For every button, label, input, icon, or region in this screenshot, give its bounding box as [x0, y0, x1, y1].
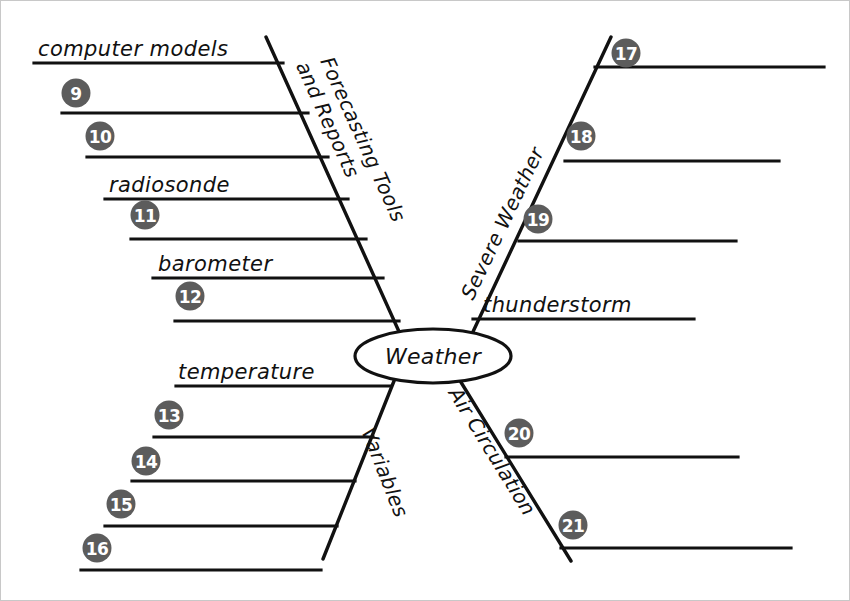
number-label-17: 17: [615, 44, 638, 64]
branch-label-forecasting: Forecasting Tools and Reports: [291, 48, 411, 236]
number-label-16: 16: [86, 539, 109, 559]
number-marker-16[interactable]: 16: [83, 534, 112, 563]
fishbone-diagram: Forecasting Tools and Reports computer m…: [1, 1, 850, 601]
number-marker-10[interactable]: 10: [86, 122, 115, 151]
center-node-weather[interactable]: Weather: [355, 329, 511, 383]
label-barometer: barometer: [158, 252, 273, 276]
number-marker-13[interactable]: 13: [155, 401, 184, 430]
number-marker-20[interactable]: 20: [505, 419, 534, 448]
branch-forecasting-tools-and-reports[interactable]: Forecasting Tools and Reports computer m…: [34, 37, 411, 336]
label-thunderstorm: thunderstorm: [483, 293, 632, 317]
number-marker-19[interactable]: 19: [524, 205, 553, 234]
diagram-canvas: Forecasting Tools and Reports computer m…: [0, 0, 850, 601]
number-label-19: 19: [527, 210, 550, 230]
branch-variables[interactable]: Variables temperature 13 14 15 16: [81, 360, 413, 570]
center-label-weather: Weather: [385, 344, 483, 369]
number-label-11: 11: [134, 206, 157, 226]
branch-spine-severe-weather: [471, 37, 611, 336]
number-label-14: 14: [135, 452, 158, 472]
number-label-9: 9: [70, 84, 81, 104]
number-marker-21[interactable]: 21: [559, 511, 588, 540]
number-marker-11[interactable]: 11: [131, 201, 160, 230]
number-marker-14[interactable]: 14: [132, 447, 161, 476]
number-label-21: 21: [562, 516, 585, 536]
branch-severe-weather[interactable]: Severe Weather thunderstorm 17 18 19: [456, 37, 824, 336]
branch-label-variables: Variables: [356, 424, 413, 521]
number-label-13: 13: [158, 406, 181, 426]
number-label-15: 15: [110, 495, 133, 515]
number-marker-12[interactable]: 12: [176, 282, 205, 311]
branch-label-air-circulation: Air Circulation: [443, 381, 541, 519]
number-marker-15[interactable]: 15: [107, 490, 136, 519]
branch-label-variables-text: Variables: [356, 424, 413, 521]
number-marker-9[interactable]: 9: [62, 79, 91, 108]
number-marker-18[interactable]: 18: [567, 122, 596, 151]
label-temperature: temperature: [178, 360, 315, 384]
label-radiosonde: radiosonde: [109, 173, 230, 197]
number-label-10: 10: [89, 127, 112, 147]
number-label-18: 18: [570, 127, 593, 147]
branch-label-air-circulation-text: Air Circulation: [443, 381, 541, 519]
branch-air-circulation[interactable]: Air Circulation 20 21: [443, 379, 791, 561]
number-marker-17[interactable]: 17: [612, 39, 641, 68]
number-label-12: 12: [179, 287, 202, 307]
label-computer-models: computer models: [38, 37, 228, 61]
number-label-20: 20: [508, 424, 531, 444]
